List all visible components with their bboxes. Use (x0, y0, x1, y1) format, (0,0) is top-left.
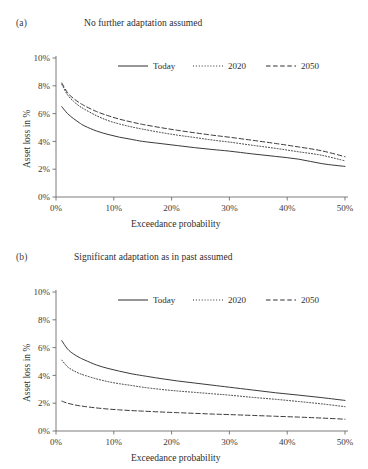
series-line-2020 (62, 84, 345, 160)
svg-text:2%: 2% (38, 398, 51, 408)
svg-text:10%: 10% (34, 287, 51, 297)
chart-panel-b: (b) Significant adaptation as in past as… (0, 234, 368, 469)
svg-text:4%: 4% (38, 137, 51, 147)
svg-text:10%: 10% (106, 437, 123, 447)
plot-area-a: 0%2%4%6%8%10%0%10%20%30%40%50%Today20202… (0, 0, 368, 235)
svg-text:0%: 0% (50, 203, 63, 213)
legend-label-2020: 2020 (228, 295, 247, 305)
svg-text:0%: 0% (38, 426, 51, 436)
chart-panel-a: (a) No further adaptation assumed Asset … (0, 0, 368, 235)
legend-label-2050: 2050 (301, 61, 320, 71)
series-line-2050 (62, 83, 345, 157)
svg-text:2%: 2% (38, 164, 51, 174)
svg-text:40%: 40% (279, 437, 296, 447)
svg-text:4%: 4% (38, 371, 51, 381)
svg-text:40%: 40% (279, 203, 296, 213)
legend-label-2050: 2050 (301, 295, 320, 305)
plot-area-b: 0%2%4%6%8%10%0%10%20%30%40%50%Today20202… (0, 234, 368, 469)
figure-container: (a) No further adaptation assumed Asset … (0, 0, 368, 469)
svg-text:0%: 0% (38, 192, 51, 202)
svg-text:20%: 20% (163, 203, 180, 213)
svg-text:0%: 0% (50, 437, 63, 447)
svg-text:50%: 50% (337, 437, 354, 447)
svg-text:20%: 20% (163, 437, 180, 447)
svg-text:6%: 6% (38, 343, 51, 353)
svg-text:50%: 50% (337, 203, 354, 213)
svg-text:10%: 10% (34, 53, 51, 63)
svg-text:30%: 30% (221, 203, 238, 213)
svg-text:8%: 8% (38, 315, 51, 325)
legend-label-today: Today (153, 295, 176, 305)
svg-text:30%: 30% (221, 437, 238, 447)
svg-text:6%: 6% (38, 109, 51, 119)
series-line-2050 (62, 401, 345, 419)
series-line-today (62, 341, 345, 401)
svg-text:10%: 10% (106, 203, 123, 213)
legend-label-today: Today (153, 61, 176, 71)
legend-label-2020: 2020 (228, 61, 247, 71)
series-line-today (62, 107, 345, 167)
svg-text:8%: 8% (38, 81, 51, 91)
